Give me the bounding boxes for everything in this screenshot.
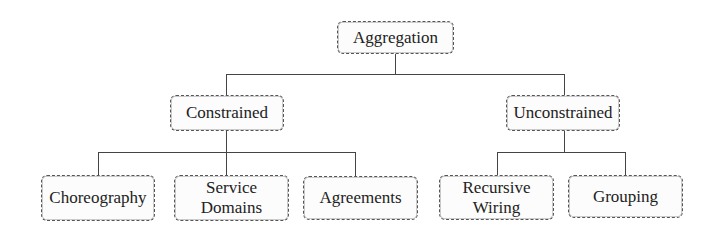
node-constrained: Constrained [170,95,284,131]
node-label: Choreography [49,188,146,208]
connector-unconstrained-up [564,74,565,95]
node-label: Unconstrained [513,103,612,123]
connector-constrained-stem [226,131,227,152]
node-label: Recursive Wiring [463,178,531,218]
connector-agreements-up [355,152,356,176]
aggregation-diagram: Aggregation Constrained Unconstrained Ch… [0,0,720,236]
connector-level1-bar [226,74,565,75]
connector-constrained-bar [98,152,356,153]
node-agreements: Agreements [303,176,418,220]
connector-root-stem [395,54,396,74]
connector-unconstrained-bar [497,152,626,153]
connector-choreography-up [98,152,99,175]
node-label: Service Domains [201,178,262,218]
node-label: Agreements [319,188,401,208]
node-unconstrained: Unconstrained [506,95,620,131]
connector-constrained-up [226,74,227,95]
node-choreography: Choreography [41,175,155,221]
connector-grouping-up [625,152,626,175]
node-label: Grouping [593,187,658,207]
node-recursive-wiring: Recursive Wiring [439,175,554,220]
connector-service-domains-up [226,152,227,175]
node-label: Constrained [186,103,268,123]
connector-unconstrained-stem [564,131,565,152]
node-grouping: Grouping [568,175,683,218]
node-aggregation: Aggregation [337,21,454,54]
connector-recursive-wiring-up [497,152,498,175]
node-label: Aggregation [353,28,438,48]
node-service-domains: Service Domains [174,175,289,221]
